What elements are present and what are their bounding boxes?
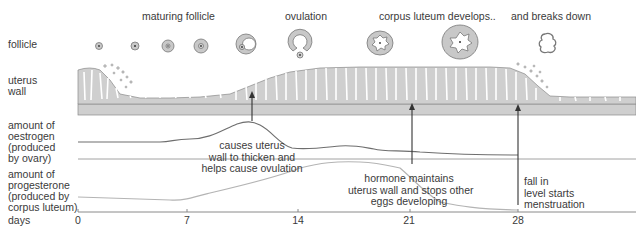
progesterone-effect-note: hormone maintains uterus wall and stops … <box>348 173 470 208</box>
ovulation-follicle-icon <box>288 29 312 58</box>
menstruation-note: fall in level starts menstruation <box>524 176 585 211</box>
day-tick-21: 21 <box>403 214 415 226</box>
day-tick-14: 14 <box>292 214 304 226</box>
uterus-wall-band <box>78 63 636 115</box>
follicle-icon-3 <box>162 40 174 52</box>
day-tick-28: 28 <box>512 214 524 226</box>
corpus-luteum-icon-1 <box>367 31 393 55</box>
oestrogen-effect-note: causes uterus wall to thicken and helps … <box>199 140 305 175</box>
degenerating-corpus-luteum-icon <box>539 33 556 52</box>
follicle-icon-2 <box>131 42 139 50</box>
follicle-icon-4 <box>194 39 208 53</box>
day-tick-7: 7 <box>184 214 190 226</box>
uterus-lining <box>78 67 636 104</box>
corpus-luteum-icon-2 <box>442 25 478 59</box>
day-tick-0: 0 <box>75 214 81 226</box>
follicle-icon-5 <box>236 34 256 54</box>
follicle-stages <box>96 25 556 59</box>
follicle-icon-1 <box>96 43 103 50</box>
